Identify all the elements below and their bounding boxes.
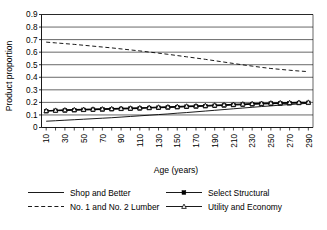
legend-label: Shop and Better (70, 188, 131, 198)
legend-label: Utility and Economy (208, 202, 283, 212)
legend-marker-square (182, 191, 186, 195)
legend-label: No. 1 and No. 2 Lumber (70, 202, 160, 212)
legend-label: Select Structural (208, 188, 270, 198)
chart-container: 0.90.80.70.60.50.40.30.20.10 10305070901… (0, 0, 327, 230)
chart-legend: Shop and BetterSelect StructuralNo. 1 an… (0, 0, 327, 230)
